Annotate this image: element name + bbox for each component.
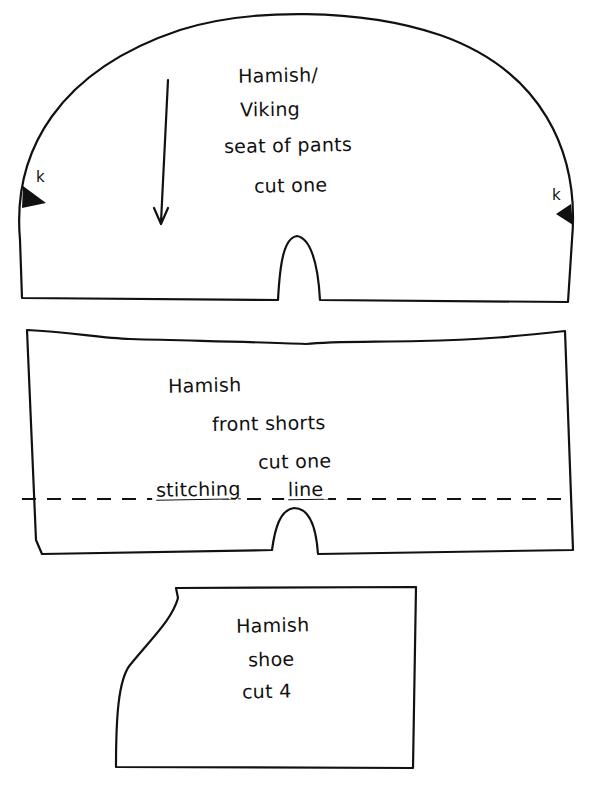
shoe-label-line-2: shoe: [248, 648, 295, 671]
stitching-label: stitching: [152, 477, 245, 501]
shorts-label-line-3: cut one: [258, 449, 332, 472]
shorts-label-line-2: front shorts: [212, 411, 326, 435]
notch-right-icon: [556, 204, 573, 225]
seat-label-line-3: seat of pants: [224, 133, 352, 157]
seat-label-line-4: cut one: [254, 173, 328, 196]
seat-of-pants-piece: [19, 14, 573, 302]
line-label: line: [284, 478, 328, 501]
seat-label-line-2: Viking: [240, 97, 300, 120]
seat-outline: [19, 14, 573, 302]
notch-mark-right: k: [552, 186, 561, 204]
notch-left-icon: [22, 186, 46, 208]
front-shorts-outline: [27, 330, 573, 554]
shorts-label-line-1: Hamish: [168, 373, 242, 396]
grain-arrow-icon: [154, 80, 168, 224]
front-shorts-piece: [22, 330, 573, 554]
shoe-label-line-3: cut 4: [242, 680, 292, 703]
shoe-label-line-1: Hamish: [236, 613, 310, 636]
notch-mark-left: k: [36, 168, 45, 186]
seat-label-line-1: Hamish/: [238, 63, 319, 86]
